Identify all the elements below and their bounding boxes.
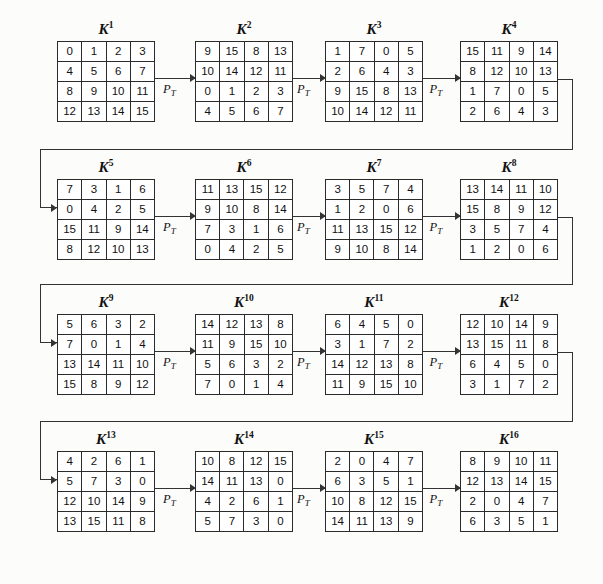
matrix-table: 4261573012101491315118 — [57, 451, 155, 532]
matrix-label-base: K — [236, 21, 246, 37]
matrix-cell: 2 — [461, 102, 485, 122]
matrix-row: 6351 — [461, 512, 558, 532]
matrix-cell: 8 — [130, 512, 154, 532]
matrix-cell: 0 — [350, 452, 374, 472]
matrix-cell: 14 — [509, 315, 533, 335]
matrix-row-block-2: K57316042515119148121013PTK6111315129108… — [0, 160, 603, 295]
matrix-cell: 14 — [350, 102, 374, 122]
transform-label-subscript: T — [305, 226, 310, 236]
matrix-row-block-1: K10123456789101112131415PTK2915813101412… — [0, 22, 603, 157]
matrix-cell: 13 — [350, 220, 374, 240]
matrix-table: 1511914812101317052643 — [460, 41, 558, 122]
matrix-row: 1081215 — [196, 452, 293, 472]
matrix-cell: 8 — [461, 452, 485, 472]
matrix-cell: 13 — [58, 355, 82, 375]
matrix-cell: 7 — [509, 220, 533, 240]
matrix-cell: 9 — [398, 512, 422, 532]
matrix-label-k1: K1 — [57, 22, 155, 37]
matrix-row: 2643 — [326, 62, 423, 82]
matrix-cell: 0 — [82, 335, 106, 355]
matrix-cell: 5 — [374, 472, 398, 492]
matrix-row: 4567 — [58, 62, 155, 82]
matrix-cell: 11 — [485, 42, 509, 62]
matrix-cell: 15 — [58, 375, 82, 395]
matrix-cell: 13 — [533, 62, 557, 82]
matrix-cell: 9 — [509, 200, 533, 220]
matrix-cell: 3 — [82, 180, 106, 200]
matrix-cell: 5 — [485, 220, 509, 240]
matrix-cell: 7 — [268, 102, 292, 122]
matrix-table: 3574120611131512910814 — [325, 179, 423, 260]
matrix-cell: 1 — [461, 82, 485, 102]
matrix-cell: 6 — [533, 240, 557, 260]
matrix-cell: 10 — [268, 335, 292, 355]
matrix-row: 915813 — [326, 82, 423, 102]
matrix-row: 158912 — [58, 375, 155, 395]
matrix-cell: 15 — [461, 200, 485, 220]
matrix-row-block-4: K134261573012101491315118PTK141081215141… — [0, 432, 603, 567]
wrap-connector-segment — [40, 421, 41, 479]
matrix-cell: 13 — [268, 42, 292, 62]
matrix-table: 7316042515119148121013 — [57, 179, 155, 260]
matrix-cell: 8 — [374, 240, 398, 260]
matrix-cell: 0 — [509, 240, 533, 260]
matrix-label-exponent: 11 — [374, 293, 383, 303]
matrix-row: 10141211 — [196, 62, 293, 82]
matrix-cell: 13 — [82, 102, 106, 122]
matrix-label-base: K — [501, 21, 511, 37]
matrix-label-exponent: 6 — [247, 158, 252, 168]
matrix-row: 1315118 — [461, 335, 558, 355]
matrix-cell: 9 — [326, 82, 350, 102]
matrix-cell: 6 — [244, 492, 268, 512]
matrix-cell: 0 — [533, 355, 557, 375]
matrix-table: 1705264391581310141211 — [325, 41, 423, 122]
matrix-cell: 1 — [106, 335, 130, 355]
matrix-cell: 3 — [326, 335, 350, 355]
matrix-cell: 1 — [244, 375, 268, 395]
matrix-label-k15: K15 — [325, 432, 423, 447]
matrix-cell: 6 — [326, 472, 350, 492]
matrix-label-exponent: 9 — [109, 293, 114, 303]
matrix-table: 1412138119151056327014 — [195, 314, 293, 395]
matrix-cell: 2 — [326, 62, 350, 82]
matrix-cell: 6 — [350, 62, 374, 82]
matrix-label-exponent: 15 — [374, 430, 384, 440]
matrix-cell: 13 — [398, 82, 422, 102]
matrix-cell: 15 — [244, 180, 268, 200]
transform-label-subscript: T — [305, 88, 310, 98]
matrix-cell: 4 — [268, 375, 292, 395]
matrix-label-exponent: 14 — [244, 430, 254, 440]
matrix-cell: 4 — [58, 452, 82, 472]
matrix-cell: 10 — [326, 492, 350, 512]
transform-label-base: P — [297, 220, 305, 234]
matrix-cell: 11 — [398, 102, 422, 122]
matrix-cell: 6 — [106, 452, 130, 472]
matrix-cell: 10 — [485, 315, 509, 335]
matrix-cell: 6 — [461, 512, 485, 532]
matrix-cell: 2 — [244, 240, 268, 260]
matrix-cell: 11 — [196, 180, 220, 200]
matrix-cell: 15 — [350, 82, 374, 102]
matrix-cell: 14 — [130, 220, 154, 240]
matrix-cell: 7 — [533, 492, 557, 512]
matrix-cell: 2 — [326, 452, 350, 472]
matrix-row: 1705 — [461, 82, 558, 102]
matrix-cell: 10 — [196, 452, 220, 472]
matrix-label-exponent: 8 — [512, 158, 517, 168]
matrix-row: 1411130 — [196, 472, 293, 492]
matrix-cell: 2 — [268, 355, 292, 375]
matrix-cell: 0 — [374, 200, 398, 220]
matrix-cell: 12 — [461, 472, 485, 492]
matrix-cell: 15 — [461, 42, 485, 62]
transform-label-subscript: T — [437, 498, 442, 508]
matrix-cell: 12 — [220, 315, 244, 335]
matrix-row: 13141110 — [461, 180, 558, 200]
matrix-cell: 1 — [220, 82, 244, 102]
matrix-label-k2: K2 — [195, 22, 293, 37]
matrix-row: 8121013 — [461, 62, 558, 82]
matrix-cell: 3 — [106, 472, 130, 492]
matrix-label-k4: K4 — [460, 22, 558, 37]
matrix-cell: 7 — [82, 472, 106, 492]
matrix-cell: 4 — [82, 200, 106, 220]
matrix-cell: 4 — [485, 355, 509, 375]
